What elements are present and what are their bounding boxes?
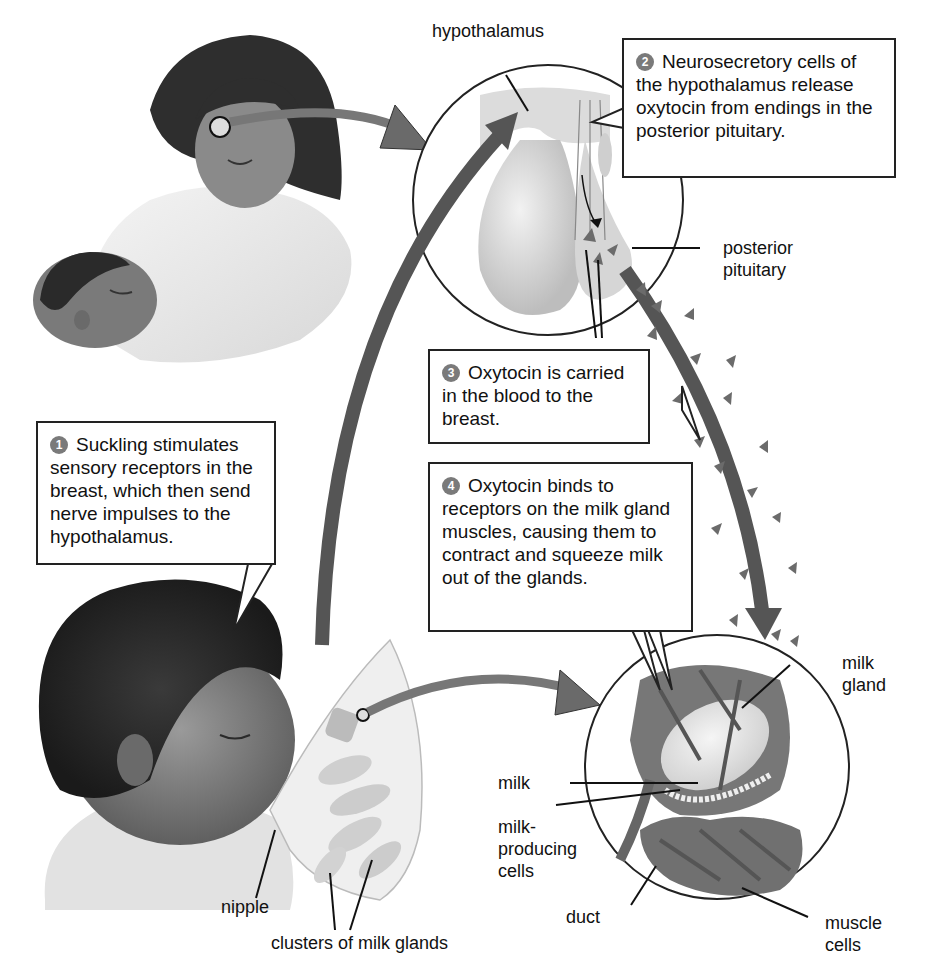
breast-cross-section [270,640,422,900]
label-milk-gland: milk gland [842,652,886,696]
label-milk-producing-line3: cells [498,860,577,882]
step-2-callout: 2Neurosecretory cells of the hypothalamu… [622,38,896,178]
hypothalamus-marker-icon [210,117,230,137]
label-milk-producing-cells: milk- producing cells [498,816,577,882]
label-posterior-pituitary-line2: pituitary [723,259,793,281]
milk-gland-magnified-view [585,635,849,899]
label-milk-producing-line2: producing [498,838,577,860]
step-1-badge: 1 [50,436,68,454]
label-muscle-cells: muscle cells [825,912,882,956]
baby-nursing-illustration [39,580,295,910]
label-clusters-of-milk-glands: clusters of milk glands [271,932,448,954]
step-1-text: Suckling stimulates sensory receptors in… [50,434,253,547]
gland-marker-icon [357,709,369,721]
label-posterior-pituitary: posterior pituitary [723,237,793,281]
step-4-callout: 4Oxytocin binds to receptors on the milk… [428,462,693,632]
label-hypothalamus: hypothalamus [432,20,544,42]
label-posterior-pituitary-line1: posterior [723,237,793,259]
step-4-badge: 4 [442,477,460,495]
label-duct: duct [566,906,600,928]
label-milk-gland-line2: gland [842,674,886,696]
mother-nursing-illustration [33,35,351,363]
label-milk: milk [498,772,530,794]
label-milk-gland-line1: milk [842,652,886,674]
step-3-callout: 3Oxytocin is carried in the blood to the… [428,349,650,444]
step-2-badge: 2 [636,53,654,71]
step-1-callout: 1Suckling stimulates sensory receptors i… [36,421,276,565]
step-3-text: Oxytocin is carried in the blood to the … [442,362,624,429]
step-3-badge: 3 [442,364,460,382]
step-2-text: Neurosecretory cells of the hypothalamus… [636,51,873,141]
label-muscle-cells-line1: muscle [825,912,882,934]
label-nipple: nipple [221,896,269,918]
label-milk-producing-line1: milk- [498,816,577,838]
step-4-text: Oxytocin binds to receptors on the milk … [442,475,670,588]
label-muscle-cells-line2: cells [825,934,882,956]
